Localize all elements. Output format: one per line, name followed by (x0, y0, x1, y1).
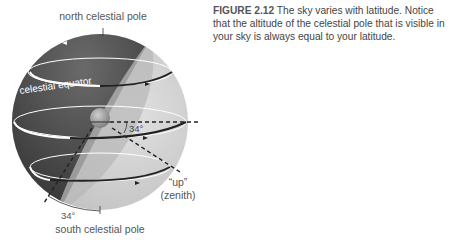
angle-label-top: 34° (129, 123, 144, 134)
up-label: “up” (169, 176, 188, 188)
figure-number: FIGURE 2.12 (213, 5, 274, 16)
north-pole-label: north celestial pole (59, 10, 147, 22)
south-pole-label: south celestial pole (55, 223, 144, 235)
angle-label-bottom: 34° (61, 210, 76, 221)
figure-caption: FIGURE 2.12 The sky varies with latitude… (213, 4, 449, 43)
earth (90, 108, 110, 128)
zenith-label: (zenith) (160, 189, 195, 201)
